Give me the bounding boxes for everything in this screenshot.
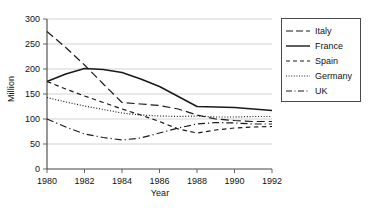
legend-label-germany: Germany <box>315 71 352 81</box>
svg-text:50: 50 <box>30 139 40 149</box>
tick-labels: 0501001502002503001980198219841986198819… <box>25 14 282 186</box>
legend-line-germany <box>286 71 310 81</box>
svg-text:100: 100 <box>25 114 40 124</box>
legend-item-germany: Germany <box>282 68 360 83</box>
data-series <box>47 32 272 141</box>
svg-text:150: 150 <box>25 89 40 99</box>
series-line-uk <box>47 119 272 140</box>
x-axis-title: Year <box>120 188 200 198</box>
svg-text:1986: 1986 <box>149 176 169 186</box>
svg-text:200: 200 <box>25 64 40 74</box>
legend-line-uk <box>286 86 310 96</box>
legend: Italy France Spain Germany UK <box>281 18 361 102</box>
svg-text:300: 300 <box>25 14 40 24</box>
svg-text:1992: 1992 <box>262 176 282 186</box>
svg-text:250: 250 <box>25 39 40 49</box>
svg-text:0: 0 <box>35 164 40 174</box>
legend-line-france <box>286 41 310 51</box>
svg-text:1988: 1988 <box>187 176 207 186</box>
legend-item-italy: Italy <box>282 23 360 38</box>
legend-line-italy <box>286 26 310 36</box>
legend-item-france: France <box>282 38 360 53</box>
legend-label-uk: UK <box>315 86 328 96</box>
svg-text:1982: 1982 <box>74 176 94 186</box>
svg-text:1984: 1984 <box>112 176 132 186</box>
legend-line-spain <box>286 56 310 66</box>
legend-label-spain: Spain <box>315 56 338 66</box>
svg-text:1980: 1980 <box>37 176 57 186</box>
svg-text:1990: 1990 <box>224 176 244 186</box>
legend-label-france: France <box>315 41 343 51</box>
tick-marks <box>43 19 272 173</box>
line-chart: 0501001502002503001980198219841986198819… <box>0 0 368 208</box>
legend-item-spain: Spain <box>282 53 360 68</box>
legend-item-uk: UK <box>282 83 360 98</box>
gridlines <box>47 19 272 144</box>
series-line-france <box>47 69 272 111</box>
y-axis-title: Million <box>6 64 16 114</box>
legend-label-italy: Italy <box>315 26 332 36</box>
